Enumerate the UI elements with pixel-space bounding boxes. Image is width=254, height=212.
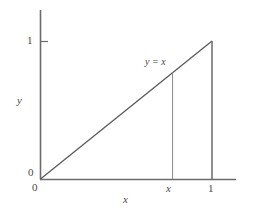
- y-axis-title: y: [17, 95, 22, 106]
- x-axis-tick-label-one: 1: [208, 183, 214, 194]
- y-axis-tick-label-one: 1: [27, 35, 33, 46]
- figure-container: 1 0 0 y x x 1 y = x: [0, 0, 254, 212]
- curve-equation-label: y = x: [145, 57, 166, 67]
- x-axis-title: x: [123, 194, 128, 205]
- x-axis-tick-label-x: x: [166, 183, 171, 194]
- y-axis-tick-label-zero: 0: [28, 167, 34, 178]
- x-axis-tick-label-zero: 0: [32, 182, 38, 193]
- plot-canvas: [0, 0, 254, 212]
- line-y-equals-x: [41, 41, 213, 179]
